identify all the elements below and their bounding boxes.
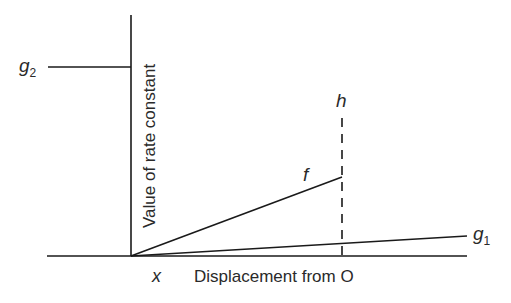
g1-subscript: 1 bbox=[484, 234, 491, 248]
origin-label: x bbox=[152, 266, 161, 287]
g1-letter: g bbox=[473, 223, 484, 244]
x-axis-label: Displacement from O bbox=[194, 267, 354, 287]
g2-letter: g bbox=[19, 55, 30, 76]
g1-label: g1 bbox=[473, 223, 490, 245]
g2-subscript: 2 bbox=[30, 66, 37, 80]
g2-label: g2 bbox=[19, 55, 36, 77]
diagram-canvas bbox=[0, 0, 511, 303]
f-line bbox=[131, 177, 342, 256]
y-axis-label: Value of rate constant bbox=[140, 64, 160, 228]
h-label: h bbox=[336, 90, 347, 112]
g1-line bbox=[131, 236, 467, 256]
f-label: f bbox=[303, 164, 308, 186]
